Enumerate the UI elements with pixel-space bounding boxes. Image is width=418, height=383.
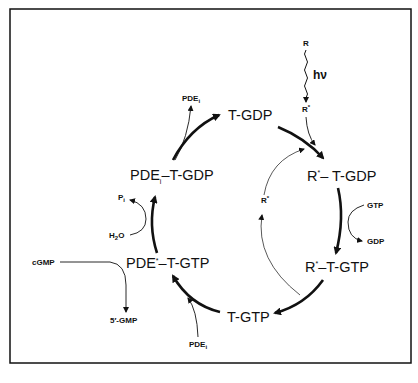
label-gdp: GDP — [367, 237, 385, 246]
arrow-pdei-to-tgdp — [173, 115, 219, 160]
diagram-canvas: T-GDP R*– T-GDP R*–T-GTP T-GTP PDE*–T-GT… — [0, 0, 418, 383]
arrow-rstar-recycle — [264, 149, 304, 195]
arrow-gtp-gdp-exchange — [348, 205, 364, 241]
node-t-gdp: T-GDP — [228, 107, 272, 123]
node-t-gtp: T-GTP — [227, 309, 270, 325]
label-r-star-inner: R* — [261, 195, 270, 205]
label-pdei-bottom: PDEi — [189, 340, 207, 350]
arrow-hydrolysis — [130, 200, 146, 235]
arrow-rstar-binding — [306, 117, 315, 145]
node-r-t-gdp: R*– T-GDP — [307, 168, 376, 184]
label-cgmp: cGMP — [32, 258, 55, 267]
arrow-pdetgtp-to-pdeitgdp — [152, 197, 157, 253]
label-5-gmp: 5′-GMP — [110, 316, 138, 325]
label-r: R — [303, 39, 309, 48]
node-pdei-t-gdp: PDEi–T-GDP — [130, 167, 214, 185]
arrow-rstar-release — [261, 215, 300, 295]
arrow-tgdp-to-rtgdp — [278, 127, 323, 158]
label-pi: Pi — [118, 193, 125, 203]
arrow-rtgtp-to-tgtp — [275, 280, 323, 313]
label-pdei-top: PDEi — [182, 94, 200, 104]
arrow-rtgdp-to-rtgtp — [336, 188, 341, 253]
label-hv: hν — [313, 68, 327, 82]
label-gtp: GTP — [367, 201, 384, 210]
label-r-star-top: R* — [302, 104, 311, 114]
light-activation-wave — [305, 50, 308, 102]
label-h2o: H2O — [109, 231, 124, 241]
node-pde-t-gtp: PDE*–T-GTP — [126, 255, 209, 271]
arrow-pdei-binding — [188, 298, 198, 337]
node-r-t-gtp: R*–T-GTP — [305, 259, 369, 275]
arrow-cgmp-hydrolysis — [60, 262, 126, 312]
arrow-tgtp-to-pdetgtp — [173, 276, 220, 312]
